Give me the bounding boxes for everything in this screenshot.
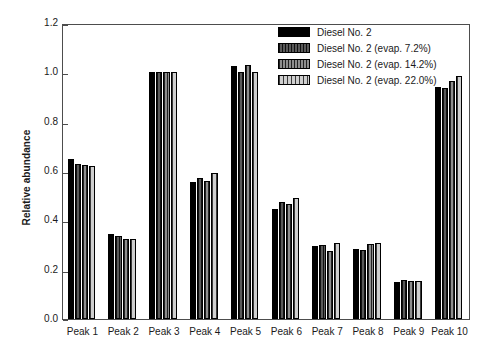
bar <box>123 239 129 319</box>
bar <box>75 164 81 319</box>
bar-group <box>104 25 145 319</box>
y-axis-tick-label: 1.0 <box>28 66 58 77</box>
bar <box>211 173 217 319</box>
bar <box>238 72 244 319</box>
bar <box>68 159 74 319</box>
y-axis-tick-label: 0.6 <box>28 165 58 176</box>
y-axis-tick-labels: 0.00.20.40.60.81.01.2 <box>26 0 58 361</box>
legend-item: Diesel No. 2 (evap. 7.2%) <box>278 40 437 56</box>
bar <box>279 202 285 319</box>
bar <box>449 81 455 319</box>
bar <box>415 281 421 319</box>
bar-group <box>145 25 186 319</box>
y-axis-tick-label: 0.8 <box>28 116 58 127</box>
bar <box>130 239 136 319</box>
y-axis-tick-label: 0.4 <box>28 214 58 225</box>
legend-item: Diesel No. 2 <box>278 24 437 40</box>
bar <box>197 178 203 319</box>
bar <box>327 251 333 319</box>
bar <box>115 236 121 319</box>
bar <box>190 182 196 319</box>
bar <box>293 198 299 319</box>
x-axis-tick-label: Peak 10 <box>423 326 476 337</box>
y-axis-tick-label: 1.2 <box>28 17 58 28</box>
bar <box>312 246 318 319</box>
bar <box>375 243 381 319</box>
bar <box>334 243 340 319</box>
legend-item: Diesel No. 2 (evap. 14.2%) <box>278 56 437 72</box>
bar <box>82 165 88 319</box>
legend-label: Diesel No. 2 (evap. 22.0%) <box>317 75 437 86</box>
bar <box>149 72 155 319</box>
legend-swatch <box>278 43 310 53</box>
bar <box>156 72 162 319</box>
y-axis-tick-mark <box>63 320 68 321</box>
bar <box>394 282 400 319</box>
bar-group <box>185 25 226 319</box>
legend-item: Diesel No. 2 (evap. 22.0%) <box>278 72 437 88</box>
legend-swatch <box>278 75 310 85</box>
legend-swatch <box>278 59 310 69</box>
y-axis-tick-label: 0.0 <box>28 313 58 324</box>
bar <box>367 244 373 319</box>
bar <box>408 281 414 319</box>
bar <box>319 245 325 319</box>
bar <box>360 250 366 319</box>
bar-group <box>226 25 267 319</box>
bar <box>442 88 448 319</box>
bar <box>171 72 177 319</box>
bar <box>204 181 210 319</box>
bar <box>89 166 95 319</box>
bar <box>252 72 258 319</box>
bar <box>401 280 407 319</box>
legend-label: Diesel No. 2 <box>317 27 371 38</box>
legend-label: Diesel No. 2 (evap. 7.2%) <box>317 43 431 54</box>
bar-chart-figure: Relative abundance 0.00.20.40.60.81.01.2… <box>0 0 489 361</box>
y-axis-tick-label: 0.2 <box>28 264 58 275</box>
bar <box>108 234 114 319</box>
bar <box>163 72 169 319</box>
bar <box>286 204 292 319</box>
legend-label: Diesel No. 2 (evap. 14.2%) <box>317 59 437 70</box>
bar <box>435 87 441 319</box>
chart-legend: Diesel No. 2Diesel No. 2 (evap. 7.2%)Die… <box>276 22 439 90</box>
bar <box>245 65 251 319</box>
bar-group <box>63 25 104 319</box>
legend-swatch <box>278 27 310 37</box>
bar <box>353 249 359 319</box>
bar <box>272 209 278 319</box>
x-axis-tick-labels: Peak 1Peak 2Peak 3Peak 4Peak 5Peak 6Peak… <box>62 326 470 346</box>
bar <box>231 66 237 319</box>
bar <box>456 76 462 319</box>
